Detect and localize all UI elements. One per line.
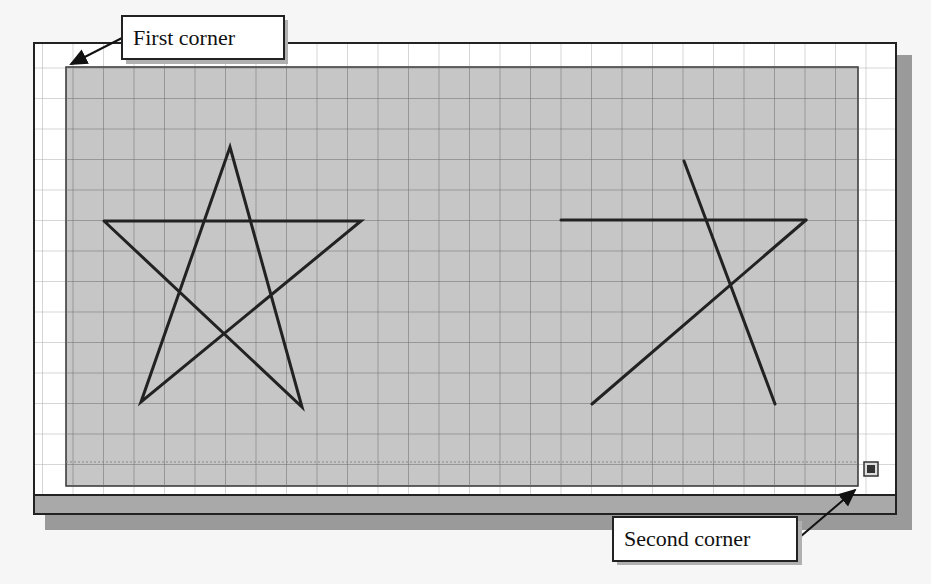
second-corner-callout: Second corner <box>612 516 798 562</box>
second-corner-label: Second corner <box>624 526 750 551</box>
first-corner-callout: First corner <box>121 15 285 60</box>
second-corner-arrow <box>800 490 855 537</box>
first-corner-label: First corner <box>133 25 235 50</box>
grip-handle-icon[interactable] <box>864 462 878 476</box>
drawing-canvas[interactable] <box>0 0 931 584</box>
